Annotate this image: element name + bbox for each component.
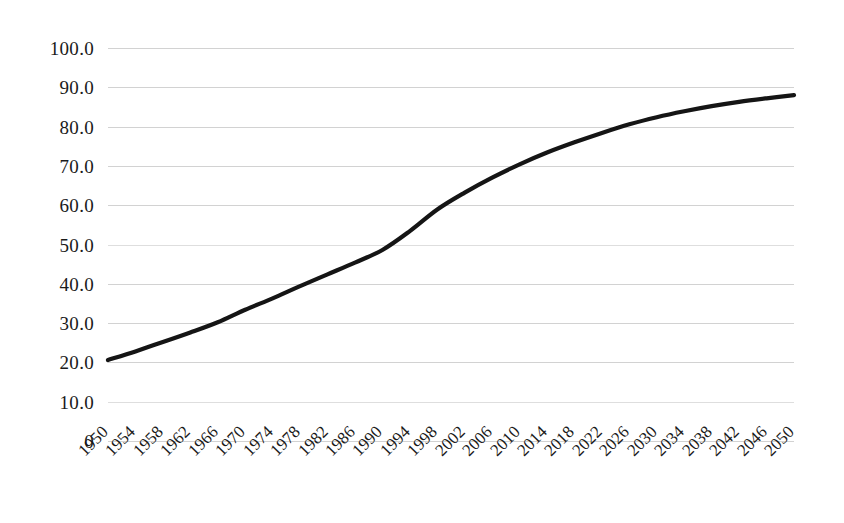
series-line-layer <box>108 48 794 441</box>
y-tick-label-50: 50.0 <box>14 236 94 255</box>
series-line-urban-population-share <box>108 95 794 360</box>
y-tick-label-70: 70.0 <box>14 157 94 176</box>
y-tick-label-80: 80.0 <box>14 118 94 137</box>
y-tick-label-40: 40.0 <box>14 275 94 294</box>
gridline-0 <box>108 441 794 442</box>
y-tick-label-10: 10.0 <box>14 393 94 412</box>
line-chart: 100.090.080.070.060.050.040.030.020.010.… <box>0 0 844 523</box>
y-tick-label-100: 100.0 <box>14 39 94 58</box>
y-tick-label-30: 30.0 <box>14 314 94 333</box>
y-tick-label-0: 0 <box>14 432 94 451</box>
y-tick-label-20: 20.0 <box>14 353 94 372</box>
y-tick-label-90: 90.0 <box>14 78 94 97</box>
plot-area <box>108 48 794 441</box>
x-tick-label-1950: 1950 <box>75 423 111 459</box>
y-tick-label-60: 60.0 <box>14 196 94 215</box>
